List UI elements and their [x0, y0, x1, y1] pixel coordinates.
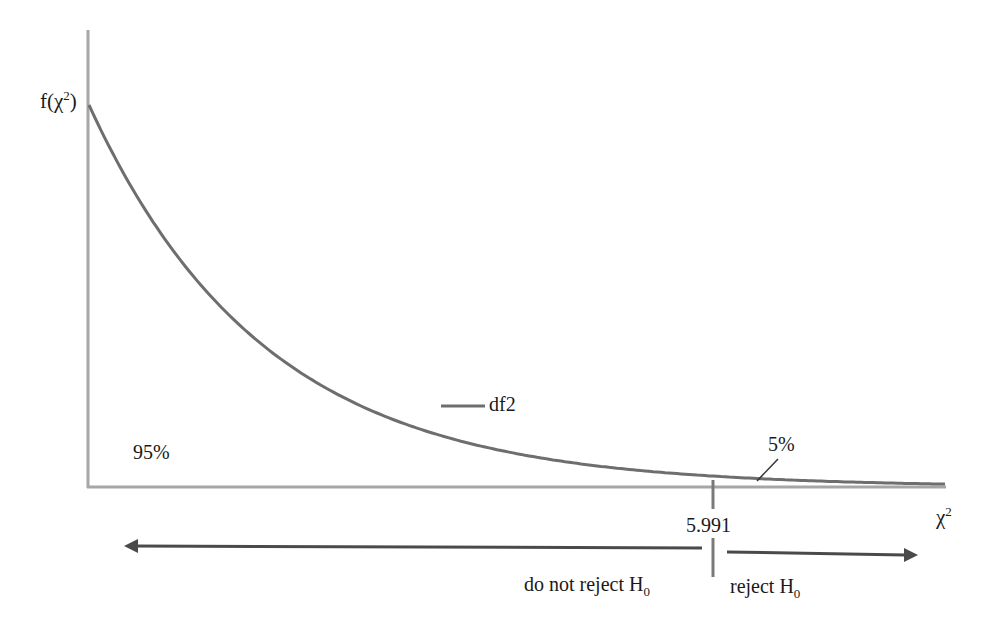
- right-arrowhead-icon: [904, 548, 918, 562]
- critical-value-label: 5.991: [686, 514, 731, 537]
- reject-arrow-line: [727, 552, 905, 555]
- left-arrowhead-icon: [124, 539, 138, 553]
- left-region-percent: 95%: [133, 441, 170, 464]
- x-axis-label: χ2: [936, 504, 952, 530]
- y-axis-label: f(χ2): [40, 88, 77, 114]
- legend-label: df2: [489, 393, 516, 416]
- chi-square-diagram: [0, 0, 994, 631]
- do-not-reject-arrow-line: [135, 546, 702, 548]
- do-not-reject-label: do not reject H0: [524, 573, 650, 600]
- reject-label: reject H0: [730, 575, 800, 602]
- right-region-percent: 5%: [768, 433, 795, 456]
- density-curve: [89, 105, 945, 484]
